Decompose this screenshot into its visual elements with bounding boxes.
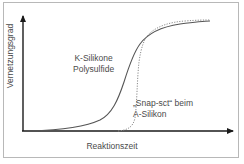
annotation-dotted-line2: A-Silikon bbox=[133, 109, 193, 120]
x-axis-label: Reaktionszeit bbox=[86, 141, 137, 151]
annotation-solid-curve: K-Silikone Polysulfide bbox=[73, 53, 114, 75]
annotation-solid-line2: Polysulfide bbox=[73, 64, 114, 75]
annotation-dotted-curve: „Snap-sct“ beim A-Silikon bbox=[133, 98, 193, 120]
chart-plot-area bbox=[0, 0, 244, 164]
annotation-solid-line1: K-Silikone bbox=[73, 53, 114, 64]
y-axis-label: Vernetzungsgrad bbox=[5, 24, 15, 88]
annotation-dotted-line1: „Snap-sct“ beim bbox=[133, 98, 193, 109]
